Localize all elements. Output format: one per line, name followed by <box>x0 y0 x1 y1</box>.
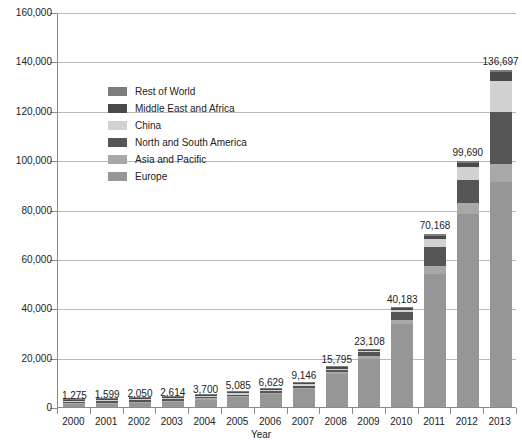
bar-segment[interactable] <box>326 374 348 407</box>
bar-group[interactable]: 2,050 <box>129 12 151 407</box>
bar-group[interactable]: 99,690 <box>457 12 479 407</box>
bar-group[interactable]: 136,697 <box>490 12 512 407</box>
bar-segment[interactable] <box>391 312 413 320</box>
legend-swatch-icon <box>108 172 127 181</box>
x-axis-tick-mark <box>418 408 419 414</box>
bar-group[interactable]: 1,599 <box>96 12 118 407</box>
bar-segment[interactable] <box>424 274 446 407</box>
bar-group[interactable]: 40,183 <box>391 12 413 407</box>
legend-item[interactable]: North and South America <box>108 134 247 151</box>
legend-swatch-icon <box>108 104 127 113</box>
bar-segment[interactable] <box>490 81 512 112</box>
bar-value-label: 136,697 <box>483 56 519 67</box>
legend-item-label: North and South America <box>135 137 247 148</box>
bar-value-label: 2,614 <box>160 387 185 398</box>
y-axis-tick-label: 80,000 <box>0 206 52 216</box>
bar-group[interactable]: 9,146 <box>293 12 315 407</box>
bar-group[interactable]: 2,614 <box>162 12 184 407</box>
bar-segment[interactable] <box>227 397 249 407</box>
bar-stack[interactable] <box>424 234 446 407</box>
legend-item-label: Rest of World <box>135 86 195 97</box>
bar-value-label: 15,795 <box>321 354 352 365</box>
bar-stack[interactable] <box>293 382 315 407</box>
x-axis-tick-mark <box>483 408 484 414</box>
bar-segment[interactable] <box>424 266 446 273</box>
bar-segment[interactable] <box>63 404 85 407</box>
bar-group[interactable]: 5,085 <box>227 12 249 407</box>
bar-value-label: 1,275 <box>62 390 87 401</box>
bar-stack[interactable] <box>391 307 413 407</box>
gridline <box>58 62 516 63</box>
x-axis-tick-label: 2013 <box>477 416 522 427</box>
legend-item[interactable]: Europe <box>108 168 247 185</box>
legend-swatch-icon <box>108 87 127 96</box>
bar-stack[interactable] <box>227 391 249 407</box>
bar-value-label: 3,700 <box>193 384 218 395</box>
bar-group[interactable]: 6,629 <box>260 12 282 407</box>
bar-segment[interactable] <box>424 239 446 247</box>
bar-value-label: 5,085 <box>226 380 251 391</box>
bar-group[interactable]: 23,108 <box>358 12 380 407</box>
stacked-bar-chart: 1,2751,5992,0502,6143,7005,0856,6299,146… <box>0 0 522 440</box>
bar-value-label: 2,050 <box>127 388 152 399</box>
bar-value-label: 99,690 <box>453 147 484 158</box>
bar-group[interactable]: 3,700 <box>195 12 217 407</box>
x-axis-tick-mark <box>385 408 386 414</box>
gridline <box>58 13 516 14</box>
bar-group[interactable]: 70,168 <box>424 12 446 407</box>
gridline <box>58 211 516 212</box>
legend-swatch-icon <box>108 121 127 130</box>
y-axis-tick-label: 160,000 <box>0 8 52 18</box>
x-axis-tick-mark <box>123 408 124 414</box>
legend-swatch-icon <box>108 155 127 164</box>
x-axis-tick-mark <box>287 408 288 414</box>
legend-item[interactable]: Asia and Pacific <box>108 151 247 168</box>
bar-segment[interactable] <box>457 167 479 180</box>
bar-stack[interactable] <box>490 70 512 407</box>
bar-segment[interactable] <box>457 214 479 407</box>
bar-segment[interactable] <box>96 404 118 407</box>
bar-stack[interactable] <box>260 388 282 407</box>
legend-item[interactable]: Middle East and Africa <box>108 100 247 117</box>
legend-item[interactable]: Rest of World <box>108 83 247 100</box>
x-axis-title: Year <box>0 429 522 440</box>
chart-legend: Rest of WorldMiddle East and AfricaChina… <box>108 83 247 185</box>
bar-segment[interactable] <box>358 359 380 407</box>
bar-segment[interactable] <box>490 72 512 81</box>
bar-segment[interactable] <box>195 400 217 407</box>
bar-stack[interactable] <box>195 394 217 407</box>
bar-segment[interactable] <box>457 203 479 214</box>
bar-segment[interactable] <box>391 324 413 407</box>
bar-value-label: 1,599 <box>95 389 120 400</box>
bar-value-label: 70,168 <box>420 220 451 231</box>
bar-segment[interactable] <box>260 394 282 407</box>
bar-segment[interactable] <box>293 389 315 407</box>
x-axis-tick-mark <box>254 408 255 414</box>
legend-item[interactable]: China <box>108 117 247 134</box>
x-axis-tick-mark <box>319 408 320 414</box>
bar-segment[interactable] <box>490 182 512 407</box>
y-axis-tick-label: 60,000 <box>0 255 52 265</box>
bar-group[interactable]: 1,275 <box>63 12 85 407</box>
bar-segment[interactable] <box>490 164 512 183</box>
x-axis-tick-mark <box>57 408 58 414</box>
plot-area: 1,2751,5992,0502,6143,7005,0856,6299,146… <box>57 13 516 408</box>
bar-segment[interactable] <box>490 112 512 164</box>
gridline <box>58 359 516 360</box>
bar-stack[interactable] <box>358 349 380 407</box>
legend-swatch-icon <box>108 138 127 147</box>
bar-segment[interactable] <box>424 247 446 266</box>
legend-item-label: Middle East and Africa <box>135 103 235 114</box>
bar-segment[interactable] <box>129 403 151 407</box>
bar-stack[interactable] <box>457 161 479 407</box>
bar-stack[interactable] <box>326 366 348 407</box>
x-axis-tick-mark <box>352 408 353 414</box>
bar-segment[interactable] <box>457 180 479 203</box>
y-axis-tick-label: 100,000 <box>0 156 52 166</box>
x-axis-tick-mark <box>516 408 517 414</box>
bar-segment[interactable] <box>162 402 184 407</box>
bar-group[interactable]: 15,795 <box>326 12 348 407</box>
y-axis-tick-label: 40,000 <box>0 304 52 314</box>
y-axis-tick-label: 140,000 <box>0 57 52 67</box>
legend-item-label: Europe <box>135 171 167 182</box>
